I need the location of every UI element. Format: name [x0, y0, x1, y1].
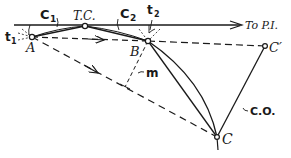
dashed-ac — [32, 37, 217, 137]
label-c1-sub: 1 — [50, 14, 56, 24]
label-c2: C — [120, 6, 130, 21]
label-to-pi: To P.I. — [245, 19, 278, 32]
label-c: C — [222, 131, 233, 147]
point-a — [29, 34, 34, 39]
label-c2-sub: 2 — [130, 13, 136, 23]
c1-leader — [57, 18, 58, 27]
point-c-prime — [263, 44, 268, 49]
offset-m-foot — [120, 84, 130, 89]
arrow-ac-icon — [84, 65, 98, 73]
label-m: m — [146, 66, 159, 80]
point-tc — [82, 23, 87, 28]
label-co: C.O. — [250, 105, 276, 118]
label-c-prime: C′ — [269, 40, 282, 55]
label-a: A — [25, 40, 35, 55]
curve-diagram: C 1 T.C. C 2 t 1 t 2 To P.I. A B C C′ m … — [0, 0, 291, 158]
line-c-c-prime — [217, 46, 265, 137]
label-tc: T.C. — [73, 9, 96, 23]
arrow-ab-icon — [88, 39, 104, 40]
point-c — [215, 135, 220, 140]
dashed-bc-prime — [148, 41, 265, 46]
label-t2: t — [147, 3, 153, 17]
chord-a-tc — [32, 26, 85, 37]
label-b: B — [129, 44, 140, 59]
label-t1-sub: 1 — [11, 37, 17, 46]
chord-bc — [148, 41, 217, 137]
label-t2-sub: 2 — [154, 10, 160, 19]
point-b — [145, 38, 150, 43]
label-c1: C — [40, 7, 50, 22]
angle-t1-arc — [29, 25, 30, 35]
m-leader — [138, 72, 144, 73]
co-leader — [243, 108, 248, 111]
